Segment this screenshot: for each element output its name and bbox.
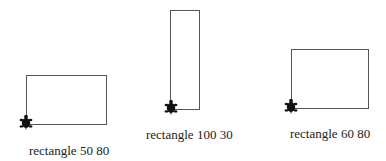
rectangle-figure <box>165 11 200 116</box>
turtle-icon <box>20 115 33 130</box>
rectangle-shape <box>292 50 369 109</box>
figure-caption: rectangle 60 80 <box>290 127 370 141</box>
rectangle-shape <box>171 11 200 110</box>
figure-caption: rectangle 100 30 <box>146 128 233 142</box>
turtle-icon <box>165 100 178 115</box>
turtle-icon <box>285 99 298 114</box>
rectangle-shape <box>27 76 107 125</box>
rectangle-figure <box>20 76 107 131</box>
figure-caption: rectangle 50 80 <box>29 144 109 158</box>
rectangle-figure <box>285 50 369 115</box>
